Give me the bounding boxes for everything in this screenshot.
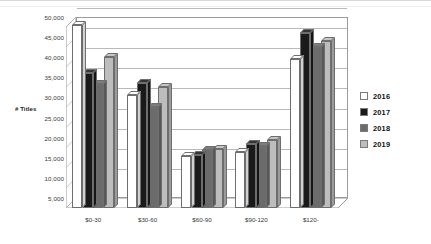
y-axis-tick: 20,000 — [20, 134, 64, 141]
y-axis-tick: 25,000 — [20, 114, 64, 121]
bar-side-face — [202, 151, 206, 208]
x-axis-tick-labels: $0-30$30-60$60-90$90-120$120- — [66, 216, 348, 230]
bar-group — [72, 27, 114, 208]
y-axis-tick: 35,000 — [20, 74, 64, 81]
bar-side-face — [137, 91, 141, 208]
bar-side-face — [93, 69, 97, 208]
bar-chart: # Titles 5,00010,00015,00020,00025,00030… — [0, 0, 431, 244]
bar-side-face — [158, 103, 162, 208]
plot-area — [66, 17, 348, 208]
y-axis-tick: 5,000 — [20, 195, 64, 202]
y-axis-tick: 30,000 — [20, 94, 64, 101]
bar-side-face — [191, 152, 195, 208]
bar-side-face — [82, 21, 86, 208]
y-axis-tick: 15,000 — [20, 154, 64, 161]
legend-item: 2017 — [360, 104, 426, 120]
bar-side-face — [266, 142, 270, 208]
y-axis-tick: 45,000 — [20, 34, 64, 41]
bar-series-container — [66, 27, 338, 208]
bar-side-face — [256, 140, 260, 208]
legend-label: 2017 — [373, 108, 390, 117]
bar-front-face — [235, 152, 245, 208]
bar-side-face — [103, 80, 107, 208]
bar-side-face — [310, 29, 314, 208]
x-axis-tick: $60-90 — [192, 216, 211, 223]
bar-side-face — [212, 146, 216, 208]
legend-swatch — [360, 140, 368, 148]
y-axis-tick-labels: 5,00010,00015,00020,00025,00030,00035,00… — [20, 17, 64, 208]
bar-side-face — [277, 136, 281, 208]
bar-group — [127, 27, 169, 208]
legend-item: 2019 — [360, 136, 426, 152]
legend-swatch — [360, 92, 368, 100]
legend-label: 2019 — [373, 140, 390, 149]
gridline — [77, 8, 347, 9]
bar-side-face — [168, 83, 172, 208]
bar-front-face — [72, 25, 82, 208]
x-axis-tick: $90-120 — [245, 216, 268, 223]
y-axis-tick: 10,000 — [20, 174, 64, 181]
x-axis-tick: $120- — [303, 216, 319, 223]
bar-side-face — [147, 79, 151, 208]
bar-side-face — [223, 145, 227, 208]
y-axis-tick: 40,000 — [20, 54, 64, 61]
bar-front-face — [127, 95, 137, 208]
legend-swatch — [360, 124, 368, 132]
legend-item: 2016 — [360, 88, 426, 104]
legend-item: 2018 — [360, 120, 426, 136]
bar-side-face — [114, 53, 118, 208]
bar-front-face — [181, 156, 191, 208]
bar-side-face — [331, 37, 335, 208]
chart-legend: 2016201720182019 — [360, 88, 426, 152]
x-axis-tick: $0-30 — [85, 216, 101, 223]
bar-group — [290, 27, 332, 208]
bar-side-face — [321, 43, 325, 208]
bar-side-face — [245, 148, 249, 208]
bar-side-face — [300, 55, 304, 208]
scan-edge-top — [0, 0, 431, 1]
scan-edge-top-secondary — [0, 6, 431, 7]
bar-front-face — [290, 59, 300, 208]
legend-label: 2016 — [373, 92, 390, 101]
bar-group — [181, 27, 223, 208]
y-axis-tick: 50,000 — [20, 14, 64, 21]
x-axis-tick: $30-60 — [138, 216, 157, 223]
legend-label: 2018 — [373, 124, 390, 133]
bar-group — [235, 27, 277, 208]
legend-swatch — [360, 108, 368, 116]
